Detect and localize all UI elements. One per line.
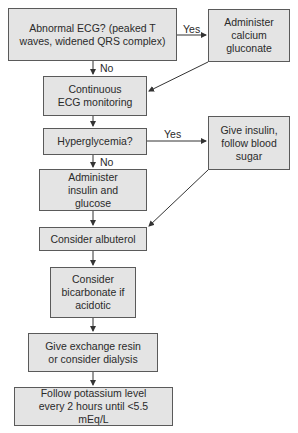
node-albuterol: Consider albuterol	[39, 227, 147, 251]
edge-label-ecg-yes: Yes	[183, 23, 200, 35]
node-text: Continuous ECG monitoring	[56, 83, 134, 109]
node-exchange-resin: Give exchange resin or consider dialysis	[28, 333, 158, 372]
node-calcium-gluconate: Administer calcium gluconate	[208, 9, 290, 62]
node-text: Give insulin, follow blood sugar	[219, 124, 279, 163]
node-text: Administer calcium gluconate	[223, 16, 275, 55]
node-text: Hyperglycemia?	[57, 135, 132, 148]
node-text: Give exchange resin or consider dialysis	[43, 340, 143, 366]
node-give-insulin: Give insulin, follow blood sugar	[208, 116, 290, 170]
edge-label-hyper-yes: Yes	[164, 128, 181, 140]
node-follow-potassium: Follow potassium level every 2 hours unt…	[14, 387, 173, 426]
node-continuous-ecg: Continuous ECG monitoring	[43, 76, 147, 116]
node-hyperglycemia: Hyperglycemia?	[43, 128, 147, 155]
node-text: Consider bicarbonate if acidotic	[61, 273, 125, 312]
node-insulin-glucose: Administer insulin and glucose	[39, 169, 147, 211]
node-text: Abnormal ECG? (peaked T waves, widened Q…	[12, 22, 173, 48]
edge-label-hyper-no: No	[100, 156, 113, 168]
node-abnormal-ecg: Abnormal ECG? (peaked T waves, widened Q…	[8, 8, 177, 61]
node-bicarbonate: Consider bicarbonate if acidotic	[50, 267, 136, 318]
node-text: Follow potassium level every 2 hours unt…	[29, 387, 158, 426]
edge-label-ecg-no: No	[100, 62, 113, 74]
node-text: Consider albuterol	[50, 233, 135, 246]
node-text: Administer insulin and glucose	[52, 171, 134, 210]
